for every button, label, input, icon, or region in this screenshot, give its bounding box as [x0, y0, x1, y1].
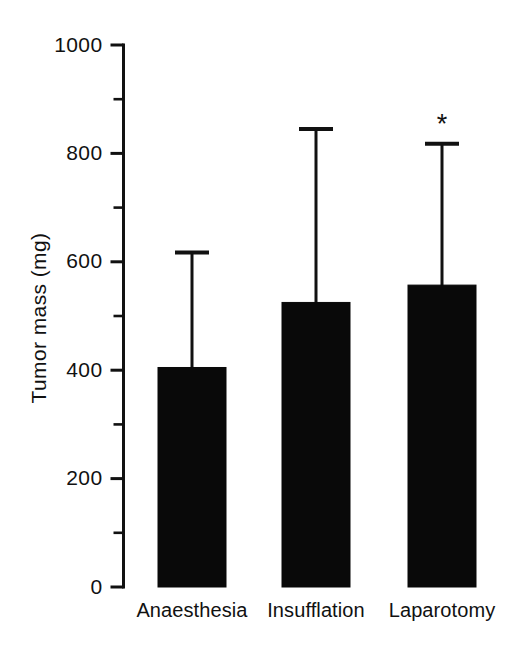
y-axis-title: Tumor mass (mg) — [27, 233, 50, 404]
x-label-insufflation: Insufflation — [267, 599, 365, 621]
bar-anaesthesia — [158, 367, 226, 587]
bars-group — [158, 129, 476, 587]
chart-canvas: 02004006008001000 AnaesthesiaInsufflatio… — [0, 0, 519, 646]
y-tick-label-400: 400 — [66, 358, 102, 381]
bar-laparotomy — [408, 285, 476, 587]
x-axis-category-labels: AnaesthesiaInsufflationLaparotomy — [136, 599, 495, 621]
significance-star-laparotomy: * — [437, 109, 448, 139]
y-tick-label-1000: 1000 — [54, 33, 102, 56]
y-tick-label-200: 200 — [66, 466, 102, 489]
y-tick-label-800: 800 — [66, 141, 102, 164]
y-axis-tick-labels: 02004006008001000 — [54, 33, 102, 598]
bar-insufflation — [282, 302, 350, 587]
bar-chart-figure: 02004006008001000 AnaesthesiaInsufflatio… — [0, 0, 519, 646]
significance-markers: * — [437, 109, 448, 139]
y-tick-label-600: 600 — [66, 249, 102, 272]
y-tick-label-0: 0 — [90, 575, 102, 598]
x-label-laparotomy: Laparotomy — [389, 599, 496, 621]
x-label-anaesthesia: Anaesthesia — [136, 599, 248, 621]
